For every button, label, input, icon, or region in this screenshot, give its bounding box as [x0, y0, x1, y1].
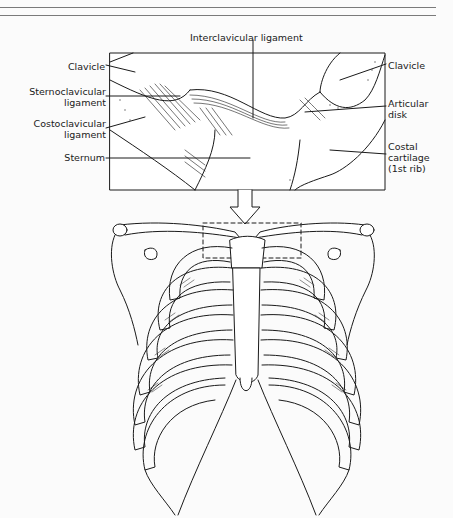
anatomy-illustration	[0, 0, 453, 518]
zoom-arrow	[230, 190, 260, 224]
inset-joint-detail	[106, 40, 386, 190]
thoracic-cage	[111, 223, 374, 515]
